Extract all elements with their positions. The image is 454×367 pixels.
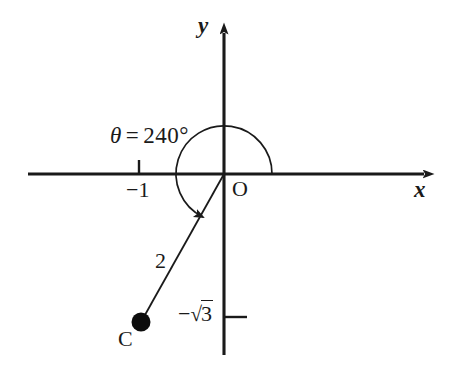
x-tick-label-minus-one: −1 <box>126 179 149 201</box>
minus-sign: − <box>178 301 190 326</box>
point-c-marker <box>132 313 151 332</box>
point-c-label: C <box>118 328 133 350</box>
equals-symbol: = <box>126 123 139 148</box>
x-axis-label: x <box>414 178 426 201</box>
y-axis-label: y <box>198 14 208 37</box>
diagram-canvas <box>0 0 454 367</box>
origin-label: O <box>232 178 248 200</box>
segment-length-label: 2 <box>155 250 166 272</box>
trigonometry-diagram: y x O θ=240° −1 2 −√3 C <box>0 0 454 367</box>
angle-measure-label: θ=240° <box>110 124 189 147</box>
angle-value: 240° <box>143 123 189 148</box>
y-tick-label-neg-sqrt3: −√3 <box>178 303 213 325</box>
radicand-value: 3 <box>201 300 213 326</box>
theta-symbol: θ <box>110 123 122 148</box>
